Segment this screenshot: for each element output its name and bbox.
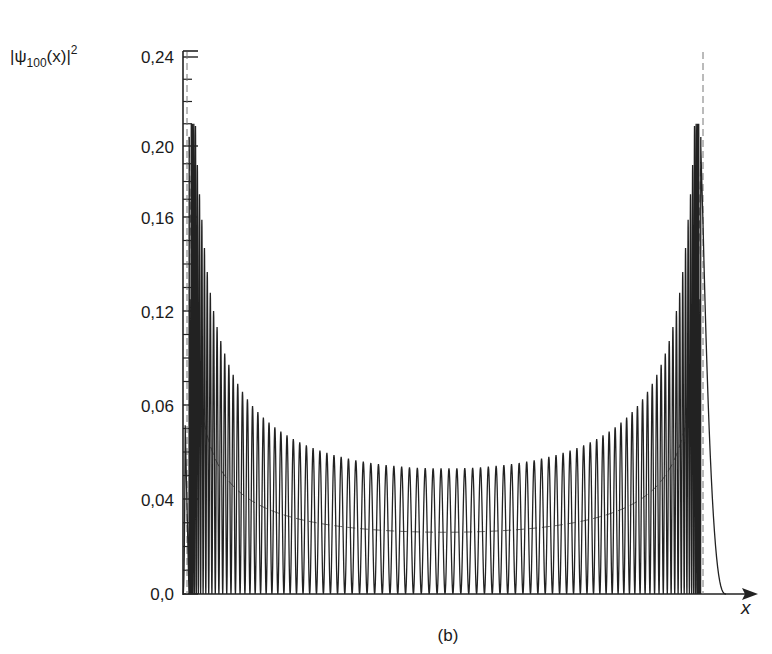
y-tick-label: 0,04 bbox=[141, 491, 174, 510]
probability-density-chart: |ψ100(x)|2 0,0 0,04 0,06 0,12 0,16 0,20 … bbox=[0, 0, 772, 654]
y-axis-title-superscript: 2 bbox=[71, 43, 78, 57]
y-tick-label: 0,12 bbox=[141, 303, 174, 322]
y-axis-title-middle: (x)| bbox=[47, 47, 71, 66]
quantum-density-curve bbox=[183, 124, 726, 594]
y-tick-labels: 0,0 0,04 0,06 0,12 0,16 0,20 0,24 bbox=[141, 48, 174, 604]
y-tick-label: 0,06 bbox=[141, 397, 174, 416]
y-tick-label: 0,20 bbox=[141, 138, 174, 157]
classical-density-curve bbox=[189, 137, 700, 533]
y-axis-title-subscript: 100 bbox=[27, 56, 47, 70]
y-axis-title-prefix: |ψ bbox=[10, 47, 27, 66]
y-tick-label: 0,16 bbox=[141, 209, 174, 228]
y-tick-label: 0,0 bbox=[150, 585, 174, 604]
y-axis-title: |ψ100(x)|2 bbox=[10, 43, 78, 70]
x-axis-title: x bbox=[740, 597, 752, 618]
figure-caption: (b) bbox=[438, 626, 459, 645]
y-tick-label: 0,24 bbox=[141, 48, 174, 67]
